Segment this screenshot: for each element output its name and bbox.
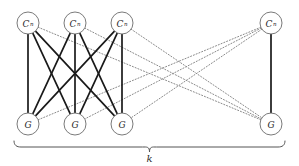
node-label: C bbox=[266, 19, 273, 29]
graph-node-bottom[interactable]: G bbox=[111, 113, 133, 135]
node-label: G bbox=[24, 120, 31, 130]
node-label: C bbox=[117, 19, 124, 29]
k-brace bbox=[14, 141, 285, 152]
node-label-subscript: n bbox=[77, 21, 81, 27]
graph-node-top[interactable]: Cn bbox=[260, 12, 282, 34]
graph-node-top[interactable]: Cn bbox=[64, 12, 86, 34]
graph-node-top[interactable]: Cn bbox=[111, 12, 133, 34]
brace-group: k bbox=[14, 141, 285, 164]
node-label: C bbox=[23, 19, 30, 29]
node-label-subscript: n bbox=[30, 21, 34, 27]
bipartite-graph-figure: CnCnCnCnGGGG k bbox=[0, 0, 299, 166]
dotted-edge-group bbox=[38, 27, 262, 120]
brace-label-k: k bbox=[146, 153, 152, 164]
node-label: G bbox=[71, 120, 78, 130]
figure-container: CnCnCnCnGGGG k bbox=[0, 0, 299, 166]
node-label: G bbox=[267, 120, 274, 130]
graph-node-bottom[interactable]: G bbox=[260, 113, 282, 135]
node-label-subscript: n bbox=[124, 21, 128, 27]
node-label: C bbox=[70, 19, 77, 29]
node-label: G bbox=[118, 120, 125, 130]
graph-node-bottom[interactable]: G bbox=[17, 113, 39, 135]
graph-node-top[interactable]: Cn bbox=[17, 12, 39, 34]
node-label-subscript: n bbox=[273, 21, 277, 27]
graph-node-bottom[interactable]: G bbox=[64, 113, 86, 135]
